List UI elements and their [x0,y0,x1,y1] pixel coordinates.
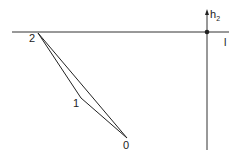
origin-dot [205,30,210,35]
point-label-2: 2 [29,32,35,44]
point-label-0: 0 [123,139,129,151]
diagram-canvas: h2 l 2 1 0 [0,0,229,156]
point-label-1: 1 [73,97,79,109]
path-1-to-0 [81,98,127,138]
path-2-to-0 [38,33,127,138]
horizontal-axis-label: l [224,36,226,48]
vertical-axis-arrow-icon [205,9,209,15]
vertical-axis-label: h2 [210,8,220,22]
path-2-to-1 [38,33,81,98]
